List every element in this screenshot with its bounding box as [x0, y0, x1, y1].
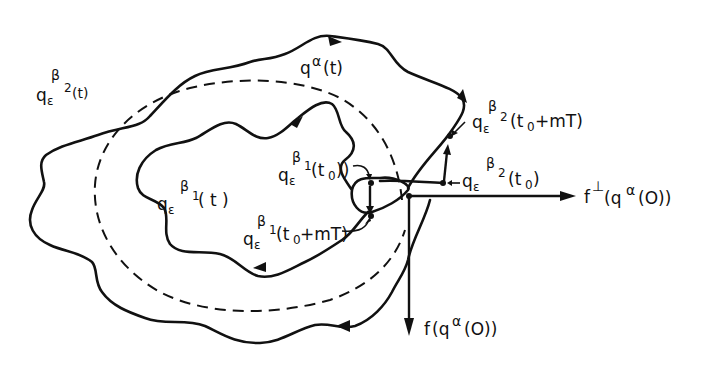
svg-text:(t: (t — [508, 169, 522, 189]
svg-text:(q: (q — [604, 188, 621, 208]
svg-text:q: q — [300, 58, 311, 78]
svg-text:q: q — [472, 112, 483, 132]
svg-text:α: α — [452, 313, 461, 329]
svg-text:β: β — [51, 67, 60, 83]
normal-vector-arrowhead — [560, 191, 576, 201]
orbit-diagram: q ε β 2 (t) q α (t) q ε β 1 ( t ) q ε β … — [0, 0, 704, 365]
svg-text:(O)): (O)) — [464, 319, 497, 339]
svg-text:+mT): +mT) — [300, 224, 348, 244]
svg-text:β: β — [257, 213, 266, 229]
svg-text:α: α — [312, 53, 321, 69]
periodic-orbit-dashed — [95, 81, 405, 311]
label-beta2-t0-mT: q ε β 2 (t 0 +mT) — [472, 98, 583, 136]
label-dashed-curve: q α (t) — [300, 53, 343, 78]
beta2-displacement-arrowhead — [443, 144, 451, 155]
label-inner-curve: q ε β 1 ( t ) — [157, 178, 229, 217]
svg-text:ε: ε — [254, 238, 261, 252]
svg-text:0: 0 — [328, 169, 336, 183]
point-beta1-t0 — [368, 180, 374, 186]
svg-text:ε: ε — [483, 122, 490, 136]
svg-text:⊥: ⊥ — [592, 178, 604, 194]
pointer-beta2-t0-head — [447, 180, 452, 186]
svg-text:2: 2 — [500, 110, 508, 124]
svg-text:( t ): ( t ) — [198, 190, 229, 210]
svg-text:(t: (t — [311, 160, 325, 180]
svg-text:ε: ε — [168, 203, 175, 217]
svg-text:q: q — [462, 171, 473, 191]
svg-text:β: β — [180, 178, 189, 194]
svg-text:ε: ε — [473, 180, 480, 194]
svg-text:ε: ε — [47, 94, 54, 108]
svg-text:+mT): +mT) — [535, 111, 583, 131]
svg-text:f: f — [424, 319, 431, 339]
tangent-vector-arrowhead — [404, 318, 414, 336]
svg-text:ε: ε — [289, 174, 296, 188]
svg-text:(q: (q — [432, 319, 449, 339]
svg-text:)): )) — [336, 160, 349, 180]
svg-text:q: q — [157, 194, 168, 214]
svg-text:0: 0 — [525, 178, 533, 192]
svg-text:β: β — [486, 155, 495, 171]
svg-text:β: β — [292, 149, 301, 165]
label-tangent-vector: f (q α (O)) — [424, 313, 497, 339]
svg-text:(t: (t — [510, 111, 524, 131]
svg-text:α: α — [626, 182, 635, 198]
svg-text:(t): (t) — [72, 85, 88, 101]
label-normal-vector: f ⊥ (q α (O)) — [584, 178, 671, 208]
svg-text:2: 2 — [64, 81, 72, 95]
svg-text:(t): (t) — [323, 58, 343, 78]
svg-text:q: q — [36, 85, 47, 105]
svg-text:): ) — [533, 169, 540, 189]
label-beta2-t0: q ε β 2 (t 0 ) — [462, 155, 540, 194]
svg-text:q: q — [278, 165, 289, 185]
svg-text:f: f — [584, 187, 591, 207]
svg-text:0: 0 — [527, 120, 535, 134]
outer-orbit-curve — [30, 36, 464, 343]
label-outer-curve: q ε β 2 (t) — [36, 67, 88, 108]
outer-arrow-bottom — [336, 320, 350, 332]
svg-text:β: β — [488, 98, 497, 114]
inner-arrow-bottom — [253, 262, 266, 272]
inner-orbit-curve — [137, 102, 409, 276]
svg-text:(t: (t — [276, 224, 290, 244]
svg-text:2: 2 — [498, 166, 506, 180]
beta2-displacement-arrow — [444, 152, 447, 181]
point-beta1-t0-mT — [368, 213, 374, 219]
svg-text:q: q — [243, 229, 254, 249]
label-beta1-t0: q ε β 1 (t 0 )) — [278, 149, 349, 188]
svg-text:(O)): (O)) — [638, 188, 671, 208]
